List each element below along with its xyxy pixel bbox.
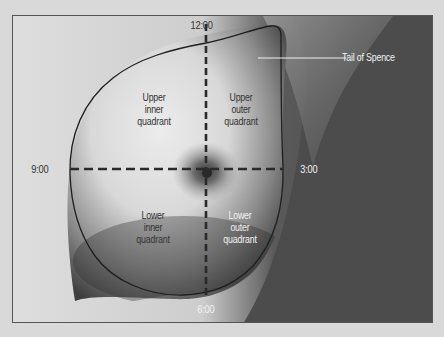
clock-label-9: 9:00 (31, 163, 48, 175)
quadrant-label-lower-inner: Lower inner quadrant (122, 210, 184, 246)
quadrant-label-line: Upper (123, 92, 185, 104)
quadrant-label-line: outer (210, 104, 272, 116)
quadrant-label-line: Upper (210, 92, 272, 104)
quadrant-label-line: quadrant (122, 234, 184, 246)
clock-label-6: 6:00 (197, 303, 214, 315)
quadrant-label-line: inner (123, 104, 185, 116)
quadrant-diagram: 12:00 3:00 6:00 9:00 Upper inner quadran… (12, 15, 433, 323)
quadrant-label-lower-outer: Lower outer quadrant (209, 210, 271, 246)
tail-of-spence-label: Tail of Spence (342, 52, 395, 64)
quadrant-label-upper-outer: Upper outer quadrant (210, 92, 272, 128)
quadrant-label-line: inner (122, 222, 184, 234)
quadrant-label-line: quadrant (210, 116, 272, 128)
clock-label-3: 3:00 (300, 163, 317, 175)
quadrant-label-upper-inner: Upper inner quadrant (123, 92, 185, 128)
quadrant-label-line: quadrant (123, 116, 185, 128)
quadrant-label-line: outer (209, 222, 271, 234)
clock-label-12: 12:00 (191, 19, 213, 31)
quadrant-label-line: Lower (122, 210, 184, 222)
quadrant-label-line: quadrant (209, 234, 271, 246)
quadrant-label-line: Lower (209, 210, 271, 222)
